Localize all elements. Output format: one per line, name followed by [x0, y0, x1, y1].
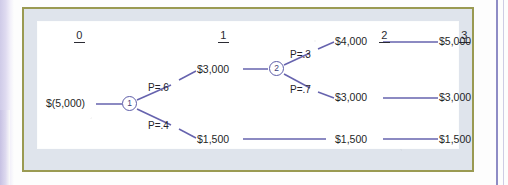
line-to-p2-mid-value	[318, 92, 334, 98]
period2-down-value: $1,500	[335, 134, 367, 145]
period3-down-value: $1,500	[439, 134, 471, 145]
period-header-1: 1	[218, 29, 229, 43]
period2-up-value: $4,000	[335, 36, 367, 47]
period2-mid-value: $3,000	[335, 92, 367, 103]
probability-branch-up: P=.6	[148, 82, 169, 93]
root-value-label: $(5,000)	[46, 98, 85, 109]
page-margin-shadow-left-lower	[0, 110, 10, 185]
probability-sub-up: P=.3	[290, 49, 311, 60]
decision-node-1[interactable]: 1	[122, 96, 137, 111]
line-to-p1-up-value	[179, 71, 196, 80]
period1-down-value: $1,500	[197, 134, 229, 145]
probability-branch-down: P=.4	[148, 120, 169, 131]
figure-frame: 0 1 2 3 $(5,000) 1 P=.6 P=.4 $3,000 $1,5…	[22, 7, 474, 172]
page-rule-right-secondary	[503, 0, 504, 185]
tree-connector-lines	[38, 22, 458, 148]
period1-up-value: $3,000	[197, 64, 229, 75]
period-header-2: 2	[379, 29, 390, 43]
period3-mid-value: $3,000	[439, 92, 471, 103]
scanned-page: 0 1 2 3 $(5,000) 1 P=.6 P=.4 $3,000 $1,5…	[0, 0, 508, 185]
probability-sub-down: P=.7	[290, 84, 311, 95]
decision-tree-canvas: 0 1 2 3 $(5,000) 1 P=.6 P=.4 $3,000 $1,5…	[38, 22, 458, 148]
line-to-p2-up-value	[318, 42, 334, 49]
line-to-p1-down-value	[179, 129, 196, 138]
page-rule-right	[496, 0, 498, 185]
period3-up-value: $5,000	[439, 36, 471, 47]
decision-node-2[interactable]: 2	[269, 61, 284, 76]
period-header-0: 0	[74, 29, 85, 43]
